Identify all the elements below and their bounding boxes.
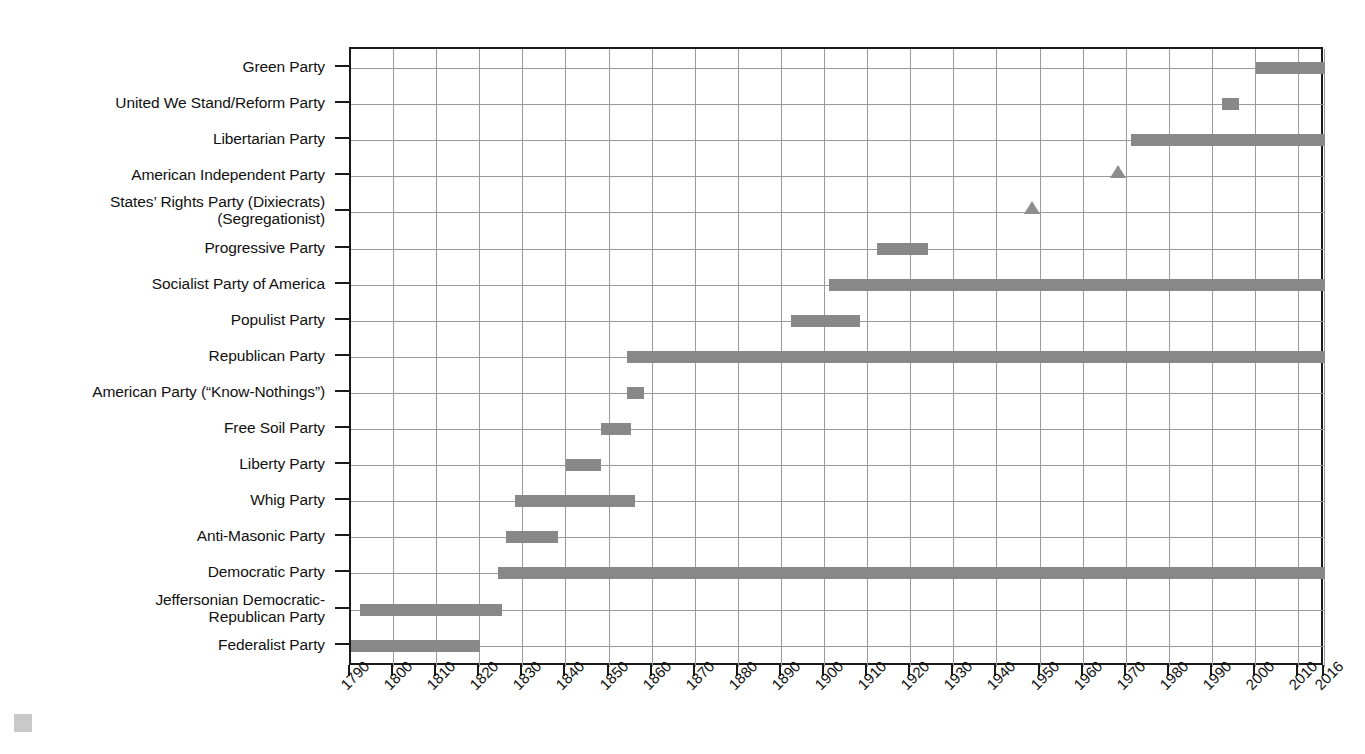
timeline-bar <box>627 351 1325 363</box>
y-axis-tick <box>335 643 349 645</box>
y-axis-tick <box>335 101 349 103</box>
y-axis-label: Anti-Masonic Party <box>10 527 325 544</box>
y-axis-tick <box>335 462 349 464</box>
timeline-bar <box>601 423 631 435</box>
y-axis-label: American Party (“Know-Nothings”) <box>10 383 325 400</box>
horizontal-gridline <box>351 501 1325 502</box>
y-axis-tick <box>335 607 349 609</box>
party-timeline-chart: Green PartyUnited We Stand/Reform PartyL… <box>0 0 1365 754</box>
timeline-bar <box>829 279 1325 291</box>
timeline-bar <box>1222 98 1239 110</box>
y-axis-tick <box>335 209 349 211</box>
horizontal-gridline <box>351 68 1325 69</box>
horizontal-gridline <box>351 537 1325 538</box>
plot-area <box>349 47 1323 665</box>
timeline-bar <box>877 243 929 255</box>
horizontal-gridline <box>351 465 1325 466</box>
y-axis-label: Jeffersonian Democratic- Republican Part… <box>10 591 325 625</box>
y-axis-label: Free Soil Party <box>10 419 325 436</box>
y-axis-tick <box>335 354 349 356</box>
timeline-bar <box>506 531 558 543</box>
horizontal-gridline <box>351 212 1325 213</box>
y-axis-tick <box>335 318 349 320</box>
y-axis-tick <box>335 282 349 284</box>
horizontal-gridline <box>351 393 1325 394</box>
timeline-bar <box>566 459 600 471</box>
horizontal-gridline <box>351 429 1325 430</box>
y-axis-tick <box>335 246 349 248</box>
y-axis-label: Democratic Party <box>10 563 325 580</box>
y-axis-label: American Independent Party <box>10 166 325 183</box>
y-axis-label: Liberty Party <box>10 455 325 472</box>
y-axis-label: United We Stand/Reform Party <box>10 94 325 111</box>
y-axis-label: Socialist Party of America <box>10 275 325 292</box>
y-axis-label: Republican Party <box>10 347 325 364</box>
timeline-bar <box>791 315 860 327</box>
y-axis-label: Green Party <box>10 58 325 75</box>
y-axis-tick <box>335 498 349 500</box>
page-corner-mark <box>14 714 32 732</box>
horizontal-gridline <box>351 176 1325 177</box>
y-axis-tick <box>335 65 349 67</box>
timeline-bar <box>498 567 1325 579</box>
y-axis-label: Whig Party <box>10 491 325 508</box>
y-axis-tick <box>335 570 349 572</box>
y-axis-tick <box>335 390 349 392</box>
y-axis-label: Populist Party <box>10 311 325 328</box>
timeline-marker-triangle <box>1110 165 1126 178</box>
timeline-bar <box>515 495 636 507</box>
timeline-marker-triangle <box>1024 201 1040 214</box>
horizontal-gridline <box>351 646 1325 647</box>
y-axis-label: Federalist Party <box>10 636 325 653</box>
y-axis-label: Libertarian Party <box>10 130 325 147</box>
horizontal-gridline <box>351 249 1325 250</box>
timeline-bar <box>1131 134 1325 146</box>
y-axis-label: States’ Rights Party (Dixiecrats) (Segre… <box>10 193 325 227</box>
y-axis-label: Progressive Party <box>10 239 325 256</box>
y-axis-tick <box>335 426 349 428</box>
horizontal-gridline <box>351 104 1325 105</box>
y-axis-tick <box>335 534 349 536</box>
timeline-bar <box>351 640 480 652</box>
timeline-bar <box>627 387 644 399</box>
y-axis-tick <box>335 137 349 139</box>
y-axis-tick <box>335 173 349 175</box>
timeline-bar <box>1256 62 1325 74</box>
timeline-bar <box>360 604 502 616</box>
